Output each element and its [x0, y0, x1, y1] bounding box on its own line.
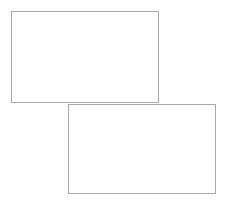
rectangle-top-left-label [12, 12, 158, 102]
rectangle-bottom-right[interactable] [68, 104, 216, 194]
rectangle-top-left[interactable] [11, 11, 159, 103]
drawing-canvas [0, 0, 227, 205]
rectangle-bottom-right-label [69, 105, 215, 193]
